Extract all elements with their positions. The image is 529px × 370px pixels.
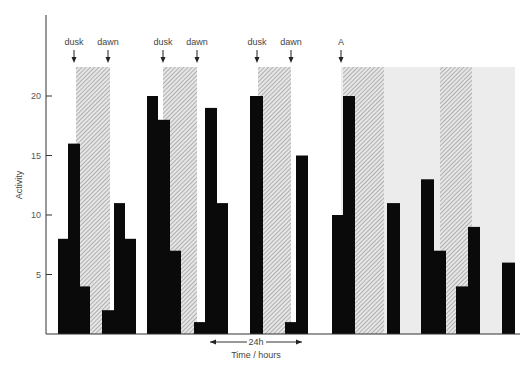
activity-bar: [102, 310, 114, 334]
annotation-label: dawn: [97, 37, 119, 47]
arrow-right-icon: [296, 340, 302, 345]
activity-bar: [421, 179, 434, 334]
y-tick-label: 15: [31, 151, 41, 161]
annotation-label: dusk: [153, 37, 173, 47]
x-axis-label: Time / hours: [231, 350, 281, 360]
annotation-label: dusk: [64, 37, 84, 47]
y-tick-label: 5: [36, 270, 41, 280]
activity-bar: [250, 96, 263, 334]
activity-bar: [296, 156, 308, 335]
arrowhead-icon: [255, 57, 260, 63]
activity-bar: [217, 203, 228, 334]
annotation-label: A: [338, 37, 344, 47]
arrowhead-icon: [339, 57, 344, 63]
activity-bar: [456, 286, 468, 334]
activity-bar: [194, 322, 205, 334]
annotation-layer: duskdawnduskdawnduskdawnA: [64, 37, 344, 63]
annotation-label: dusk: [247, 37, 267, 47]
arrowhead-icon: [195, 57, 200, 63]
activity-bar: [332, 215, 343, 334]
activity-bar: [468, 227, 480, 334]
activity-bar: [125, 239, 136, 334]
activity-chart: 5101520ActivityTime / hours24h duskdawnd…: [0, 0, 529, 370]
annotation-label: dawn: [280, 37, 302, 47]
scale-bar-label: 24h: [248, 337, 263, 347]
activity-bar: [343, 96, 355, 334]
annotation-label: dawn: [186, 37, 208, 47]
y-axis-label: Activity: [14, 170, 24, 199]
dark-period-layer: [76, 67, 515, 334]
activity-bar: [114, 203, 125, 334]
activity-bar: [58, 239, 68, 334]
activity-bar: [387, 203, 400, 334]
arrow-left-icon: [210, 340, 216, 345]
arrowhead-icon: [161, 57, 166, 63]
activity-bar: [502, 263, 515, 334]
activity-bar: [147, 96, 158, 334]
arrowhead-icon: [72, 57, 77, 63]
arrowhead-icon: [289, 57, 294, 63]
activity-bar: [170, 251, 181, 334]
activity-bar: [158, 120, 170, 334]
activity-bar: [68, 144, 80, 334]
y-tick-label: 10: [31, 210, 41, 220]
activity-bar: [205, 108, 217, 334]
y-tick-label: 20: [31, 91, 41, 101]
activity-bar: [285, 322, 296, 334]
activity-bar: [80, 286, 90, 334]
activity-bar: [434, 251, 446, 334]
arrowhead-icon: [106, 57, 111, 63]
